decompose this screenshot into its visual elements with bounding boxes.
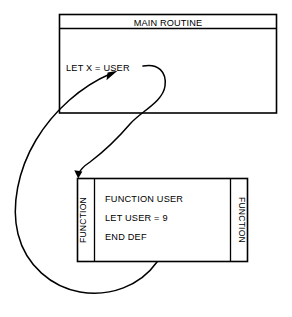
main-routine-box: MAIN ROUTINE LET X = USER [60, 15, 277, 114]
function-box-right-side-label: FUNCTION [237, 197, 247, 243]
function-box-code-line-1: FUNCTION USER [105, 194, 183, 204]
return-arrow-connector [15, 71, 157, 293]
call-arrow-connector [74, 65, 165, 178]
diagram-canvas: MAIN ROUTINE LET X = USER FUNCTION FUNCT… [0, 0, 292, 317]
function-box: FUNCTION FUNCTION FUNCTION USER LET USER… [78, 179, 248, 262]
return-arrow-curve [15, 74, 157, 293]
flow-diagram: MAIN ROUTINE LET X = USER FUNCTION FUNCT… [0, 0, 292, 317]
call-arrow-curve [79, 65, 166, 174]
function-box-left-side-label: FUNCTION [78, 197, 88, 243]
call-arrow-head [74, 170, 82, 178]
main-routine-header-label: MAIN ROUTINE [134, 18, 203, 28]
function-box-code-line-2: LET USER = 9 [105, 213, 168, 223]
main-routine-code-line-1: LET X = USER [66, 63, 130, 73]
function-box-code-line-3: END DEF [105, 232, 147, 242]
